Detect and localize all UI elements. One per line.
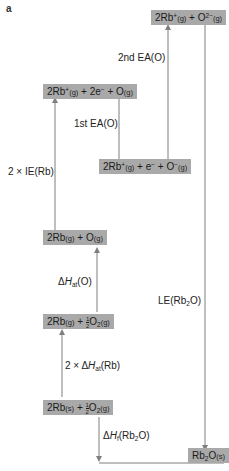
label-second-ea: 2nd EA(O) [118,52,165,63]
state: (s) [65,404,74,413]
state: (g) [65,318,74,327]
species-rb: Rb [192,450,205,461]
delta: 2 × Δ [65,360,88,371]
electron: + e [134,161,151,172]
level-product: Rb2O(s) [188,448,229,463]
species-part: (Rb [119,430,135,441]
label-first-ea: 1st EA(O) [74,118,118,129]
state: (g) [101,318,110,327]
state: (g) [213,14,222,23]
species-o2: O [89,316,97,327]
delta: Δ [58,276,65,287]
species-o: + O [75,232,94,243]
state: (g) [94,234,103,243]
species-o: + O [155,161,174,172]
species-o2: O [89,402,97,413]
state: (g) [125,163,134,172]
species: (O) [77,276,91,287]
species-rb: 2Rb [47,316,65,327]
enthalpy-symbol: H [65,276,72,287]
connector-lines [0,0,229,471]
species-rb: 2Rb [47,402,65,413]
enthalpy-symbol: H [110,430,117,441]
state: (g) [65,234,74,243]
level-ionized: 2Rb+(g) + 2e− + O(g) [43,84,137,99]
plus: + [75,316,86,327]
label-lattice-energy: LE(Rb2O) [158,295,201,306]
le-suffix: O) [190,295,201,306]
species-rb: 2Rb [47,232,65,243]
level-rb-gas: 2Rb(g) + 12O2(g) [43,314,114,329]
label-formation: ΔHf(Rb2O) [103,430,150,441]
level-first-ea: 2Rb+(g) + e− + O−(g) [99,159,191,174]
species-rb: 2Rb [47,86,65,97]
state: (g) [124,88,133,97]
born-haber-cycle-diagram: a 2Rb+(g) + O2−(g) 2nd EA(O) 2Rb+(g) + 2… [0,0,229,471]
label-ionization-energy: 2 × IE(Rb) [8,166,54,177]
state: (s) [216,452,225,461]
charge: 2− [206,12,213,19]
label-atomization-rb: 2 × ΔHat(Rb) [65,360,120,371]
state: (g) [178,163,187,172]
species-o: + O [186,12,205,23]
le-prefix: LE(Rb [158,295,186,306]
species-part: O) [138,430,149,441]
delta: Δ [103,430,110,441]
species-rb: 2Rb [103,161,121,172]
state: (g) [100,404,109,413]
level-top-ions: 2Rb+(g) + O2−(g) [151,10,226,25]
species-o: + O [105,86,124,97]
electrons: + 2e [78,86,101,97]
species-rb: 2Rb [155,12,173,23]
panel-label: a [6,3,12,14]
state: (g) [69,88,78,97]
level-gaseous-atoms: 2Rb(g) + O(g) [43,230,107,245]
level-elements: 2Rb(s) + 12O2(g) [43,400,113,415]
plus: + [74,402,85,413]
state: (g) [177,14,186,23]
species: (Rb) [101,360,120,371]
label-atomization-o: ΔHat(O) [58,276,92,287]
